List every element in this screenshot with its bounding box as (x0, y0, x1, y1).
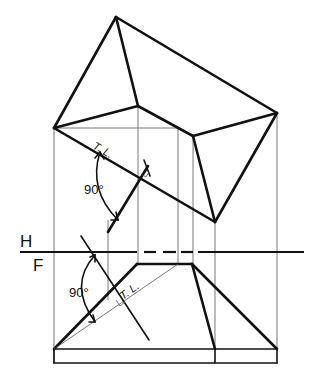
front-view-polyhedron (54, 264, 277, 363)
true-length-label-front: T. L. (117, 280, 141, 302)
plane-label-f: F (33, 256, 43, 275)
angle-label-top: 90° (84, 182, 104, 197)
angle-label-front: 90° (69, 285, 89, 300)
plane-label-h: H (20, 232, 32, 251)
true-length-line-top (54, 128, 215, 222)
projection-lines (54, 106, 277, 363)
true-length-line-front (54, 264, 178, 349)
technical-drawing: T. L. 90° H F 90° T. L. (0, 0, 326, 376)
